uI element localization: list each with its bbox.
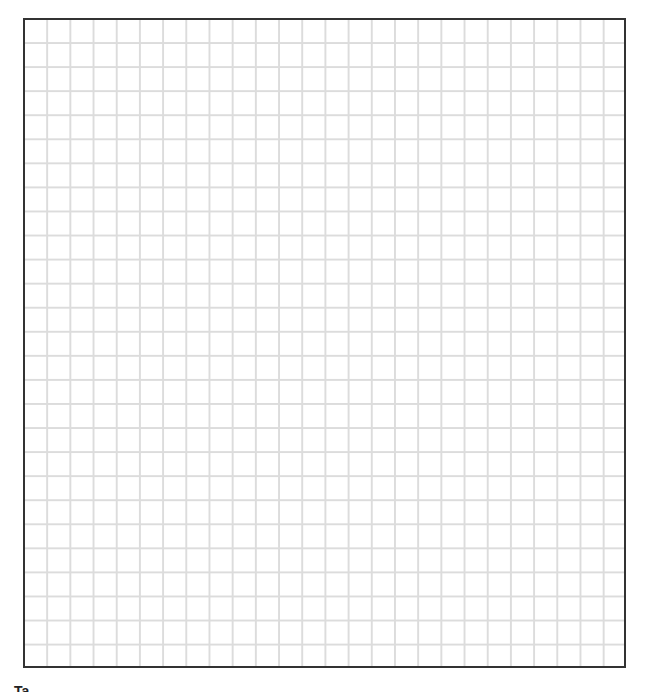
clipped-caption: Ta... bbox=[14, 684, 41, 692]
page-canvas: Ta... bbox=[0, 0, 646, 692]
grid-area[interactable] bbox=[23, 18, 626, 668]
